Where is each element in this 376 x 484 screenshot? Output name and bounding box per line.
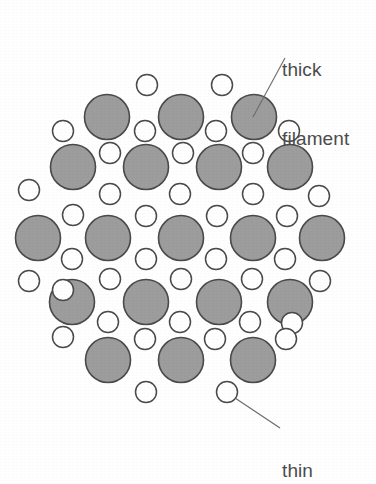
thick-filament-label-line1: thick — [282, 58, 349, 81]
thin-filament-33 — [135, 329, 156, 350]
thin-filament-23 — [19, 271, 40, 292]
thick-filament-18 — [159, 338, 204, 383]
thin-filament-32 — [53, 327, 74, 348]
thin-filament-16 — [136, 206, 157, 227]
thick-filament-5 — [124, 145, 169, 190]
thin-filament-34 — [205, 329, 226, 350]
thick-filament-2 — [159, 95, 204, 140]
thin-filament-24 — [100, 269, 121, 290]
thin-filament-19 — [62, 249, 83, 270]
thin-filament-12 — [170, 184, 191, 205]
thin-filament-7 — [100, 143, 121, 164]
thin-filament-27 — [310, 271, 331, 292]
thin-filament-10 — [19, 180, 40, 201]
thick-filament-8 — [16, 216, 61, 261]
thin-filament-3 — [53, 121, 74, 142]
thin-filament-36 — [136, 382, 157, 403]
thin-filament-22 — [275, 249, 296, 270]
thin-filament-25 — [171, 269, 192, 290]
thick-filament-14 — [124, 280, 169, 325]
thin-filament-21 — [206, 249, 227, 270]
thick-filament-label: thick filament — [282, 12, 349, 196]
thick-filament-4 — [51, 145, 96, 190]
thick-filament-12 — [300, 216, 345, 261]
thin-filament-5 — [206, 121, 227, 142]
thin-filament-label: thin filament — [282, 413, 349, 484]
thin-filament-9 — [243, 143, 264, 164]
thin-filament-30 — [240, 312, 261, 333]
thin-filament-35 — [276, 329, 297, 350]
thin-filament-37 — [217, 382, 238, 403]
thin-filament-28 — [98, 312, 119, 333]
thick-filament-6 — [197, 145, 242, 190]
thin-filament-17 — [207, 206, 228, 227]
thin-filament-15 — [63, 205, 84, 226]
thin-filament-26 — [242, 269, 263, 290]
thin-filament-29 — [170, 312, 191, 333]
thick-filament-11 — [231, 216, 276, 261]
thin-filament-13 — [243, 184, 264, 205]
thin-filament-11 — [100, 184, 121, 205]
thin-filament-1 — [137, 75, 158, 96]
thin-filament-20 — [136, 249, 157, 270]
thick-filament-3 — [232, 95, 277, 140]
thin-filament-18 — [277, 206, 298, 227]
thin-filament-4 — [135, 121, 156, 142]
thick-filament-label-line2: filament — [282, 127, 349, 150]
thick-filament-19 — [231, 338, 276, 383]
thin-filament-label-line1: thin — [282, 459, 349, 482]
thick-filament-9 — [86, 216, 131, 261]
thick-filament-15 — [197, 280, 242, 325]
thin-filament-38 — [53, 280, 74, 301]
thick-filament-10 — [159, 216, 204, 261]
thick-filament-17 — [86, 338, 131, 383]
thick-filament-1 — [85, 95, 130, 140]
thin-filament-8 — [173, 143, 194, 164]
thin-filament-2 — [212, 75, 233, 96]
